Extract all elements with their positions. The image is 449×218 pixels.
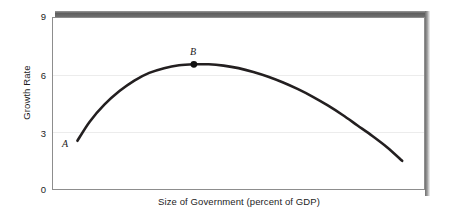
data-point-marker-b xyxy=(190,61,197,68)
point-label-b: B xyxy=(190,46,196,57)
growth-rate-curve xyxy=(77,64,402,161)
plot-svg-layer xyxy=(0,0,449,218)
data-point-markers xyxy=(190,61,197,68)
gridlines-group xyxy=(53,76,424,133)
point-label-a: A xyxy=(62,138,68,149)
chart-figure: — — — ————— —— — — Growth Rate 9 6 3 0 S… xyxy=(0,0,449,218)
